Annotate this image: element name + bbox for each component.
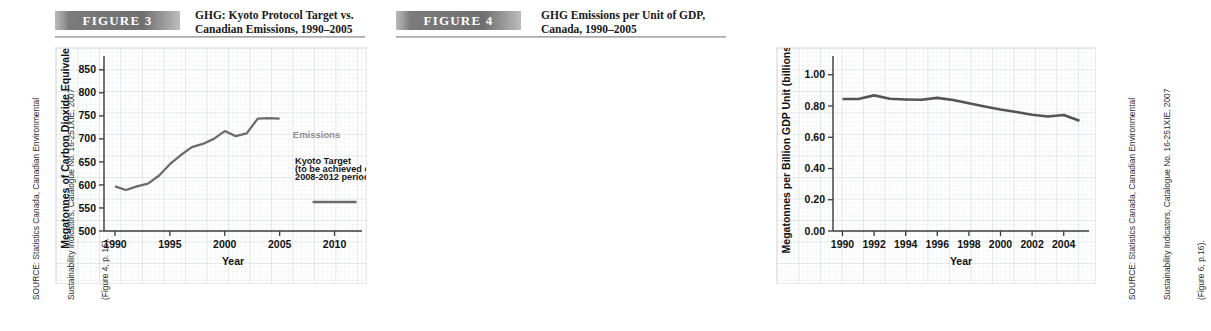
figure-4-title: GHG Emissions per Unit of GDP, Canada, 1…	[541, 8, 761, 36]
x-axis-title: Year	[222, 255, 244, 267]
figure-4-divider	[396, 36, 726, 38]
x-axis-title: Year	[950, 255, 972, 267]
data-series-line	[115, 118, 280, 190]
y-axis-tick-label: 0.40	[805, 162, 826, 174]
x-axis-tick-label: 1990	[831, 238, 855, 250]
y-axis-tick-label: 0.80	[805, 100, 826, 112]
x-axis-tick-label: 2002	[1020, 238, 1044, 250]
y-axis-tick-label: 1.00	[805, 68, 826, 80]
figure-3-header: FIGURE 3 GHG: Kyoto Protocol Target vs. …	[55, 8, 365, 44]
x-axis-tick-label: 1998	[957, 238, 981, 250]
figure-4-plot-area: 0.000.200.400.600.801.001990199219941996…	[776, 47, 1096, 284]
figure-4-source-line-1: SOURCE: Statistics Canada, Canadian Envi…	[1127, 40, 1139, 300]
x-axis-tick-label: 1995	[158, 238, 182, 250]
y-axis-title: Megatonnes per Billion GDP Unit (billion…	[780, 48, 792, 253]
y-axis-tick-label: 0.00	[805, 225, 826, 237]
x-axis-tick-label: 1996	[926, 238, 950, 250]
figure-4-source-line-2: Sustainability Indicators, Catalogue No.…	[1162, 40, 1174, 300]
chart-annotation-label: 2008-2012 period)	[295, 172, 366, 182]
figure-3-source-line-1: SOURCE: Statistics Canada, Canadian Envi…	[31, 40, 43, 300]
y-axis-tick-label: 0.60	[805, 131, 826, 143]
figure-4-source-caption: SOURCE: Statistics Canada, Canadian Envi…	[1104, 40, 1211, 300]
x-axis-tick-label: 2000	[989, 238, 1013, 250]
figure-4-title-line-2: Canada, 1990–2005	[541, 22, 761, 36]
x-axis-tick-label: 2000	[213, 238, 237, 250]
x-axis-tick-label: 2004	[1052, 238, 1076, 250]
figure-3-panel: FIGURE 3 GHG: Kyoto Protocol Target vs. …	[0, 0, 380, 331]
figure-3-divider	[55, 36, 365, 38]
x-axis-tick-label: 2005	[268, 238, 292, 250]
figure-4-chart: 0.000.200.400.600.801.001990199219941996…	[777, 48, 1095, 283]
x-axis-tick-label: 1992	[862, 238, 886, 250]
figure-4-source-line-3: (Figure 6, p.16).	[1196, 40, 1208, 300]
data-series-line	[842, 95, 1079, 120]
figure-4-title-line-1: GHG Emissions per Unit of GDP,	[541, 8, 761, 22]
figure-3-banner-label: FIGURE 3	[55, 11, 180, 30]
figure-4-panel: FIGURE 4 GHG Emissions per Unit of GDP, …	[380, 0, 760, 331]
figure-3-source-line-2: Sustainability Indicators, Catalogue No.…	[66, 40, 78, 300]
figure-4-banner-label: FIGURE 4	[396, 11, 521, 30]
figure-4-header: FIGURE 4 GHG Emissions per Unit of GDP, …	[396, 8, 726, 44]
figure-3-source-line-3: (Figure 4, p. 15).	[100, 40, 112, 300]
x-axis-tick-label: 1994	[894, 238, 918, 250]
y-axis-tick-label: 0.20	[805, 193, 826, 205]
figure-3-source-caption: SOURCE: Statistics Canada, Canadian Envi…	[8, 40, 135, 300]
chart-annotation-label: Emissions	[293, 129, 341, 140]
x-axis-tick-label: 2010	[323, 238, 347, 250]
